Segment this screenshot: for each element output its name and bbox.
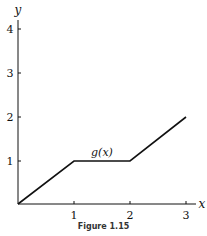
y-axis-label: y (14, 3, 22, 17)
y-tick-label-3: 3 (7, 67, 14, 80)
g-curve (18, 117, 186, 204)
y-tick-label-2: 2 (7, 111, 14, 124)
curve-label: g(x) (91, 146, 113, 159)
x-axis-label: x (199, 197, 206, 211)
y-tick-label-1: 1 (7, 155, 14, 168)
x-tick-label-1: 1 (71, 209, 78, 222)
figure-caption: Figure 1.15 (0, 222, 207, 231)
chart-canvas: 1 2 3 1 2 3 4 y x g(x) (0, 0, 207, 236)
x-tick-label-2: 2 (127, 209, 134, 222)
y-tick-label-4: 4 (7, 23, 14, 36)
x-tick-label-3: 3 (183, 209, 190, 222)
